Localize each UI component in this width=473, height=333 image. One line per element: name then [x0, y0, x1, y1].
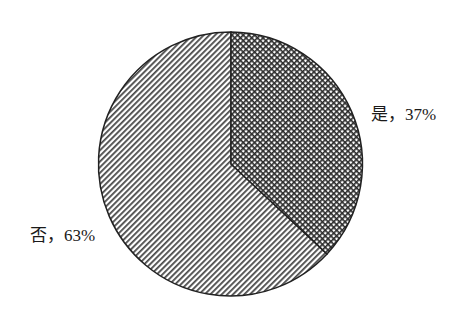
slice-label-yes: 是，37% — [371, 100, 436, 125]
pie-chart — [0, 0, 473, 333]
slice-label-no: 否，63% — [30, 221, 95, 246]
